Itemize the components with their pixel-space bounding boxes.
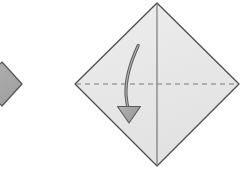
origami-diagram-canvas (0, 0, 245, 169)
origami-diagram-svg (0, 0, 245, 169)
